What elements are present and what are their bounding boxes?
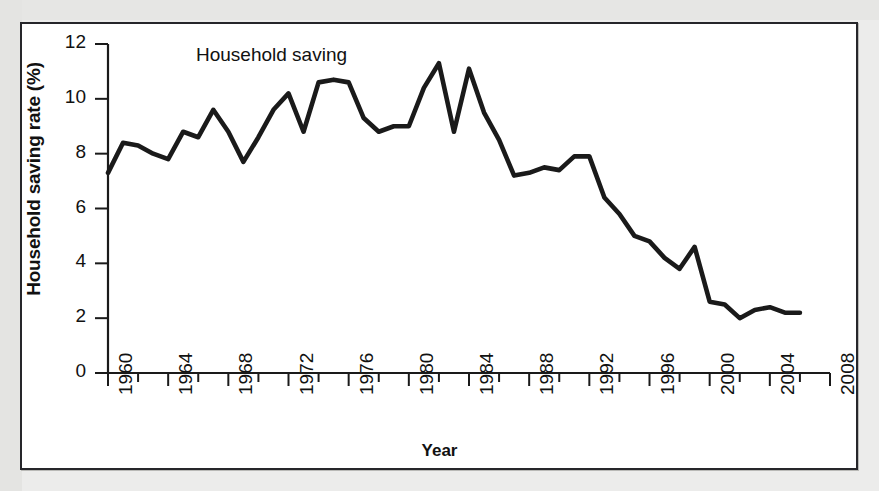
x-tick-label: 1976 (356, 353, 378, 395)
y-tick-label: 2 (46, 305, 86, 327)
y-axis-title: Household saving rate (%) (23, 49, 45, 309)
y-tick-label: 4 (46, 250, 86, 272)
y-tick-label: 0 (46, 360, 86, 382)
x-tick-label: 2008 (837, 353, 859, 395)
series-annotation-household-saving: Household saving (196, 44, 347, 66)
paper-edge-left (0, 0, 22, 491)
x-tick-label: 1992 (596, 353, 618, 395)
x-tick-label: 2004 (777, 353, 799, 395)
x-tick-label: 1960 (115, 353, 137, 395)
x-tick-label: 2000 (717, 353, 739, 395)
y-tick-label: 12 (46, 31, 86, 53)
x-axis-title: Year (0, 441, 879, 461)
chart-frame (20, 22, 858, 470)
y-tick-label: 10 (46, 86, 86, 108)
paper-edge-top (0, 0, 879, 20)
y-tick-label: 8 (46, 141, 86, 163)
x-tick-label: 1964 (175, 353, 197, 395)
figure-canvas: Household saving rate (%) Year Household… (0, 0, 879, 491)
x-tick-label: 1968 (235, 353, 257, 395)
x-tick-label: 1984 (476, 353, 498, 395)
x-tick-label: 1980 (416, 353, 438, 395)
y-tick-label: 6 (46, 196, 86, 218)
x-tick-label: 1972 (296, 353, 318, 395)
x-tick-label: 1988 (536, 353, 558, 395)
x-tick-label: 1996 (657, 353, 679, 395)
